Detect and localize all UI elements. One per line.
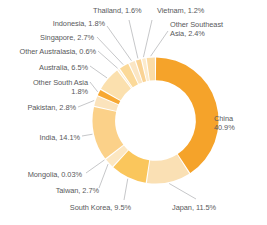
slice-label-indonesia: Indonesia, 1.8% — [30, 19, 105, 28]
leader-line-australia — [90, 66, 107, 78]
slice-label-japan: Japan, 11.5% — [172, 203, 262, 212]
slice-label-china: China 40.9% — [214, 114, 266, 132]
leader-line-singapore — [97, 37, 123, 65]
slice-label-thailand: Thailand, 1.6% — [93, 6, 165, 15]
leader-line-vietnam — [143, 20, 152, 57]
donut-chart: China 40.9% Japan, 11.5% South Korea, 9.… — [0, 0, 267, 225]
leader-line-japan — [169, 184, 196, 199]
leader-line-south-korea — [124, 179, 128, 200]
slice-label-mongolia: Mongolia, 0.03% — [4, 170, 82, 179]
leader-line-taiwan — [99, 164, 108, 188]
slice-label-india: India, 14.1% — [12, 133, 80, 142]
donut-slice-group — [93, 58, 219, 184]
slice-label-south-korea: South Korea, 9.5% — [48, 203, 131, 212]
leader-line-mongolia — [86, 160, 104, 173]
leader-line-thailand — [129, 20, 138, 58]
slice-label-other-australasia: Other Australasia, 0.6% — [0, 47, 96, 56]
slice-label-australia: Australia, 6.5% — [14, 63, 88, 72]
slice-label-other-south-asia: Other South Asia 1.8% — [4, 78, 88, 96]
slice-label-singapore: Singapore, 2.7% — [16, 33, 94, 42]
leader-line-other-south-asia — [90, 82, 98, 92]
leader-line-pakistan — [78, 100, 94, 107]
slice-label-taiwan: Taiwan, 2.7% — [33, 186, 99, 195]
donut-slice-china — [156, 58, 219, 174]
leader-line-indonesia — [107, 26, 131, 61]
slice-label-vietnam: Vietnam, 1.2% — [157, 6, 227, 15]
leader-line-india — [82, 134, 92, 136]
slice-label-other-southeast-asia: Other Southeast Asia, 2.4% — [170, 20, 265, 38]
leader-line-other-southeast-asia — [151, 31, 168, 56]
leader-line-other-australasia — [98, 51, 118, 68]
slice-label-pakistan: Pakistan, 2.8% — [4, 103, 76, 112]
